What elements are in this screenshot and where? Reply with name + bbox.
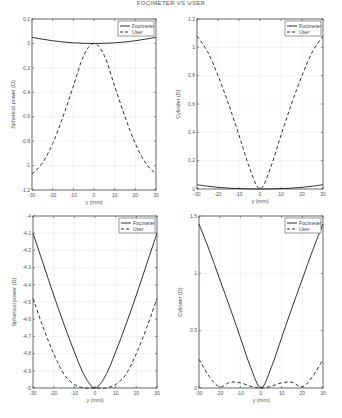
y-tick-label: 0.8	[188, 72, 195, 78]
x-tick-label: -30	[29, 390, 36, 396]
x-tick-label: 20	[300, 390, 306, 396]
legend: FocimeterUser	[119, 218, 156, 233]
legend-label: User	[299, 226, 310, 232]
y-tick-label: -1.2	[21, 187, 30, 193]
x-tick-label: -30	[193, 191, 200, 197]
x-tick-label: -20	[214, 191, 221, 197]
y-tick-label: -1	[26, 162, 31, 168]
x-tick-label: 30	[320, 191, 326, 197]
chart-panel-top-right: -30-20-10010203000.20.40.60.811.2y (mm)C…	[175, 16, 326, 204]
x-tick-label: 20	[134, 390, 140, 396]
y-axis-label: Spherical power (D)	[11, 278, 17, 327]
x-axis-label: y (mm)	[252, 397, 269, 403]
y-tick-label: -4.5	[22, 299, 31, 305]
x-tick-label: 30	[153, 192, 159, 198]
x-axis-label: y (mm)	[85, 199, 102, 205]
x-axis-label: y (mm)	[251, 198, 268, 204]
y-tick-label: 0	[27, 40, 30, 46]
x-tick-label: 10	[279, 390, 285, 396]
x-tick-label: 0	[93, 192, 96, 198]
x-tick-label: 0	[94, 390, 97, 396]
y-tick-label: -4.1	[22, 230, 31, 236]
x-tick-label: -20	[216, 390, 223, 396]
y-tick-label: 1	[192, 44, 195, 50]
legend-label: User	[299, 29, 310, 35]
x-tick-label: 20	[299, 191, 305, 197]
x-tick-label: 10	[112, 192, 118, 198]
x-tick-label: -20	[49, 192, 56, 198]
legend: FocimeterUser	[285, 21, 322, 36]
x-tick-label: 30	[320, 390, 326, 396]
y-axis-label: Cylinder (D)	[175, 89, 181, 119]
y-tick-label: 0	[192, 186, 195, 192]
x-tick-label: -20	[50, 390, 57, 396]
chart-panel-bottom-left: -30-20-100102030-4-4.1-4.2-4.3-4.4-4.5-4…	[11, 213, 160, 403]
y-tick-label: 0.2	[23, 16, 30, 22]
y-tick-label: -4.4	[22, 282, 31, 288]
y-tick-label: 1	[194, 270, 197, 276]
y-tick-label: 0.6	[188, 101, 195, 107]
y-tick-label: -4.9	[22, 368, 31, 374]
y-tick-label: 0.5	[190, 327, 197, 333]
y-tick-label: 0.2	[188, 157, 195, 163]
x-tick-label: -10	[71, 390, 78, 396]
y-axis-label: Spherical power (D)	[10, 80, 16, 129]
y-tick-label: -4.2	[22, 247, 31, 253]
x-tick-label: 0	[260, 390, 263, 396]
y-axis-label: Cylinder (D)	[177, 287, 183, 317]
x-tick-label: -10	[235, 191, 242, 197]
legend-label: User	[132, 29, 143, 35]
y-tick-label: -4	[27, 213, 32, 219]
y-tick-label: 0	[194, 385, 197, 391]
y-tick-label: -0.4	[21, 89, 30, 95]
x-tick-label: 30	[154, 390, 160, 396]
x-tick-label: 10	[113, 390, 119, 396]
x-tick-label: -10	[237, 390, 244, 396]
chart-panel-bottom-right: -30-20-10010203000.511.5y (mm)Cylinder (…	[177, 213, 326, 403]
chart-figure: -30-20-1001020300.20-0.2-0.4-0.6-0.8-1-1…	[0, 0, 342, 418]
x-tick-label: -30	[195, 390, 202, 396]
y-tick-label: -4.6	[22, 316, 31, 322]
x-tick-label: -10	[70, 192, 77, 198]
x-tick-label: 0	[259, 191, 262, 197]
legend: FocimeterUser	[118, 21, 155, 36]
y-tick-label: -4.7	[22, 333, 31, 339]
y-tick-label: -5	[27, 385, 32, 391]
legend-label: User	[133, 226, 144, 232]
y-tick-label: 1.2	[188, 16, 195, 22]
y-tick-label: -4.3	[22, 264, 31, 270]
y-tick-label: -0.6	[21, 113, 30, 119]
y-tick-label: 1.5	[190, 213, 197, 219]
y-tick-label: -0.8	[21, 138, 30, 144]
x-tick-label: -30	[28, 192, 35, 198]
chart-panel-top-left: -30-20-1001020300.20-0.2-0.4-0.6-0.8-1-1…	[10, 16, 159, 205]
y-tick-label: 0.4	[188, 129, 195, 135]
x-axis-label: y (mm)	[86, 397, 103, 403]
y-tick-label: -0.2	[21, 65, 30, 71]
legend: FocimeterUser	[285, 218, 322, 233]
y-tick-label: -4.8	[22, 350, 31, 356]
x-tick-label: 10	[278, 191, 284, 197]
x-tick-label: 20	[133, 192, 139, 198]
